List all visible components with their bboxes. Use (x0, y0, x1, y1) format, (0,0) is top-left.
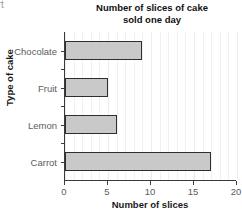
y-axis-title: Type of cake (4, 49, 15, 106)
y-axis-tick (61, 162, 65, 163)
x-axis-label-15: 15 (188, 186, 199, 197)
chart-title-line-1: Number of slices of cake (62, 2, 242, 14)
x-axis-title: Number of slices (64, 199, 236, 210)
bar-fill (65, 78, 108, 97)
y-axis-tick (61, 88, 65, 89)
y-axis-tick (61, 51, 65, 52)
bar-fruit (65, 78, 108, 97)
y-axis-label-fruit: Fruit (38, 82, 57, 93)
cropped-text-fragment: rt (0, 0, 4, 10)
x-axis-tick (236, 181, 237, 185)
x-axis-tick (107, 181, 108, 185)
y-axis-minor-tick (61, 106, 65, 107)
x-axis-label-0: 0 (61, 186, 66, 197)
plot-area (64, 32, 237, 180)
y-axis-label-carrot: Carrot (31, 156, 57, 167)
chart-title: Number of slices of cake sold one day (62, 2, 242, 25)
y-axis-label-chocolate: Chocolate (14, 45, 57, 56)
bar-chocolate (65, 41, 142, 60)
x-axis-tick (64, 181, 65, 185)
bar-fill (65, 115, 117, 134)
x-axis-tick (150, 181, 151, 185)
gridline (237, 32, 238, 180)
y-axis-label-lemon: Lemon (28, 119, 57, 130)
bar-carrot (65, 152, 211, 171)
y-axis-minor-tick (61, 143, 65, 144)
y-axis-tick (61, 125, 65, 126)
bar-fill (65, 41, 142, 60)
chart-title-line-2: sold one day (62, 14, 242, 26)
bar-chart: rt Number of slices of cake sold one day… (0, 0, 242, 215)
bar-fill (65, 152, 211, 171)
x-axis-tick (193, 181, 194, 185)
bar-lemon (65, 115, 117, 134)
x-axis-label-5: 5 (104, 186, 109, 197)
x-axis-label-20: 20 (231, 186, 242, 197)
y-axis-minor-tick (61, 69, 65, 70)
x-axis-label-10: 10 (145, 186, 156, 197)
bars-layer (65, 32, 237, 180)
